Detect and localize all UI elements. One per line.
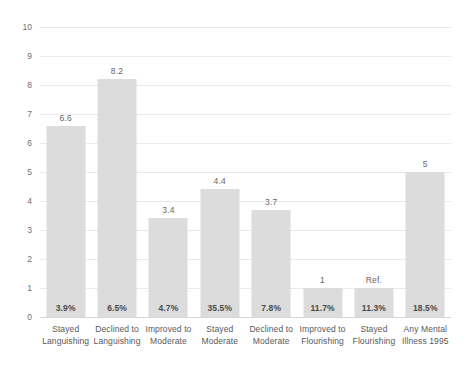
bar-series: 3.9%6.66.5%8.24.7%3.435.5%4.47.8%3.711.7… xyxy=(40,27,451,317)
bar-value-label: 8.2 xyxy=(111,66,123,76)
y-axis-tick-label: 9 xyxy=(8,51,32,61)
y-axis-tick-label: 5 xyxy=(8,167,32,177)
bar-percent-label: 4.7% xyxy=(159,303,179,313)
y-axis-tick-label: 10 xyxy=(8,22,32,32)
plot-area: 3.9%6.66.5%8.24.7%3.435.5%4.47.8%3.711.7… xyxy=(40,27,451,317)
bar-value-label: 5 xyxy=(423,159,428,169)
y-axis-tick-label: 1 xyxy=(8,283,32,293)
bar-percent-label: 7.8% xyxy=(261,303,281,313)
bar-group[interactable]: 18.5%5 xyxy=(400,27,451,317)
bar[interactable]: 18.5% xyxy=(406,172,445,317)
bar-group[interactable]: 3.9%6.6 xyxy=(40,27,91,317)
y-axis-tick-label: 3 xyxy=(8,225,32,235)
bar-group[interactable]: 7.8%3.7 xyxy=(246,27,297,317)
bar-value-label: 3.7 xyxy=(265,197,277,207)
bar-value-label: 4.4 xyxy=(214,176,226,186)
x-axis-category-label: Any MentalIllness 1995 xyxy=(394,324,457,347)
bar-percent-label: 35.5% xyxy=(208,303,233,313)
bar[interactable]: 11.3% xyxy=(354,288,393,317)
bar-value-label: Ref. xyxy=(366,275,382,285)
bar-group[interactable]: 6.5%8.2 xyxy=(91,27,142,317)
y-axis-tick-label: 8 xyxy=(8,80,32,90)
bar[interactable]: 4.7% xyxy=(149,218,188,317)
gridline-0 xyxy=(40,317,451,318)
bar-percent-label: 18.5% xyxy=(413,303,438,313)
bar[interactable]: 3.9% xyxy=(46,126,85,317)
bar-group[interactable]: 4.7%3.4 xyxy=(143,27,194,317)
bar-value-label: 3.4 xyxy=(162,205,174,215)
category-label-line: Illness 1995 xyxy=(394,336,457,348)
bar-group[interactable]: 11.3%Ref. xyxy=(348,27,399,317)
bar-percent-label: 6.5% xyxy=(107,303,127,313)
bar-percent-label: 3.9% xyxy=(56,303,76,313)
bar-percent-label: 11.7% xyxy=(310,303,334,313)
y-axis-tick-label: 0 xyxy=(8,312,32,322)
y-axis-tick-label: 2 xyxy=(8,254,32,264)
bar-group[interactable]: 11.7%1 xyxy=(297,27,348,317)
category-label-line: Any Mental xyxy=(394,324,457,336)
y-axis-tick-label: 4 xyxy=(8,196,32,206)
bar[interactable]: 7.8% xyxy=(252,210,291,317)
y-axis-tick-label: 7 xyxy=(8,109,32,119)
x-axis-labels: StayedLanguishingDeclined toLanguishingI… xyxy=(40,324,451,364)
bar-percent-label: 11.3% xyxy=(362,303,386,313)
bar[interactable]: 6.5% xyxy=(98,79,137,317)
bar[interactable]: 35.5% xyxy=(200,189,239,317)
y-axis-tick-label: 6 xyxy=(8,138,32,148)
bar-value-label: 1 xyxy=(320,275,325,285)
bar-group[interactable]: 35.5%4.4 xyxy=(194,27,245,317)
bar-chart: 012345678910 3.9%6.66.5%8.24.7%3.435.5%4… xyxy=(0,0,470,366)
bar-value-label: 6.6 xyxy=(59,113,71,123)
bar[interactable]: 11.7% xyxy=(303,288,342,317)
